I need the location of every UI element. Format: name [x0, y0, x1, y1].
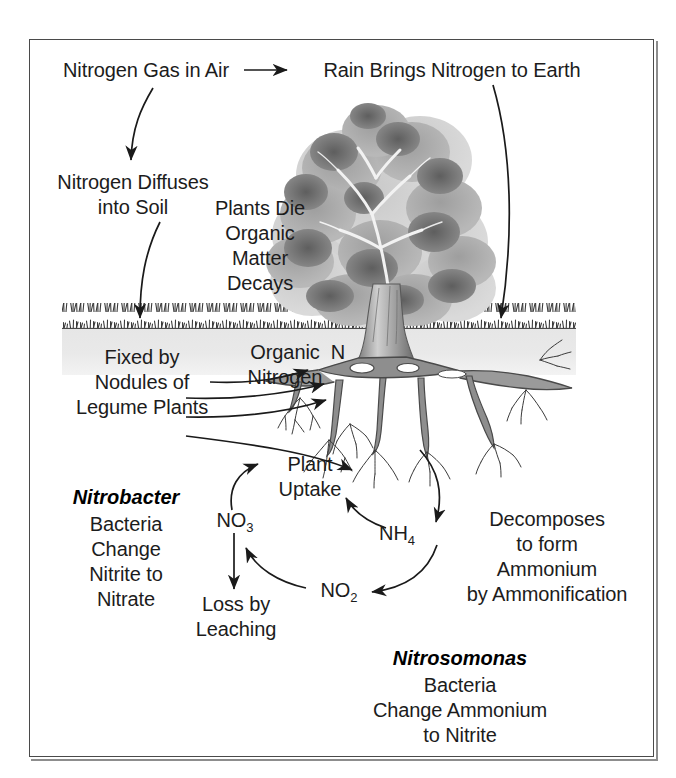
label-nitrate-no3: NO3: [200, 508, 270, 540]
label-plant-uptake-line1: Plant: [258, 452, 362, 477]
label-decomposes-line3: Ammonium: [452, 557, 642, 582]
label-organic-nitrogen-line2: Nitrogen: [216, 365, 354, 390]
ammonium-subscript: 4: [408, 533, 415, 548]
label-decomposes-line1: Decomposes: [452, 507, 642, 532]
label-plants-die-line4: Decays: [190, 271, 330, 296]
label-nitrobacter-name: Nitrobacter: [48, 485, 204, 510]
label-plants-die-line3: Matter: [190, 246, 330, 271]
nitrite-formula: NO: [321, 579, 351, 601]
label-nitrobacter-line4: Nitrate: [48, 587, 204, 612]
label-decomposes-line2: to form: [452, 532, 642, 557]
label-organic-n: N: [320, 340, 356, 365]
label-rain-brings: Rain Brings Nitrogen to Earth: [292, 58, 612, 83]
label-plant-uptake-line2: Uptake: [250, 477, 370, 502]
label-fixed-by-line1: Fixed by: [62, 345, 222, 370]
ammonium-formula: NH: [379, 522, 408, 544]
label-ammonium-nh4: NH4: [362, 521, 432, 553]
label-nitrogen-gas: Nitrogen Gas in Air: [46, 58, 246, 83]
label-nitrosomonas-line2: Change Ammonium: [330, 698, 590, 723]
nitrite-subscript: 2: [350, 590, 357, 605]
label-nitrobacter-line2: Change: [48, 537, 204, 562]
label-nitrogen-diffuses-line1: Nitrogen Diffuses: [38, 170, 228, 195]
nitrogen-cycle-diagram: Nitrogen Gas in Air Rain Brings Nitrogen…: [0, 0, 676, 778]
label-decomposes-line4: by Ammonification: [438, 582, 656, 607]
nitrate-subscript: 3: [246, 520, 253, 535]
label-fixed-by-line3: Legume Plants: [56, 395, 228, 420]
nitrate-formula: NO: [217, 509, 247, 531]
label-nitrite-no2: NO2: [304, 578, 374, 610]
label-nitrosomonas-name: Nitrosomonas: [330, 646, 590, 671]
label-nitrobacter-line1: Bacteria: [48, 512, 204, 537]
label-nitrosomonas-line3: to Nitrite: [330, 723, 590, 748]
label-loss-by-line2: Leaching: [176, 617, 296, 642]
label-plants-die-line2: Organic: [190, 221, 330, 246]
label-nitrosomonas-line1: Bacteria: [330, 673, 590, 698]
label-fixed-by-line2: Nodules of: [62, 370, 222, 395]
label-plants-die-line1: Plants Die: [190, 196, 330, 221]
label-nitrobacter-line3: Nitrite to: [48, 562, 204, 587]
